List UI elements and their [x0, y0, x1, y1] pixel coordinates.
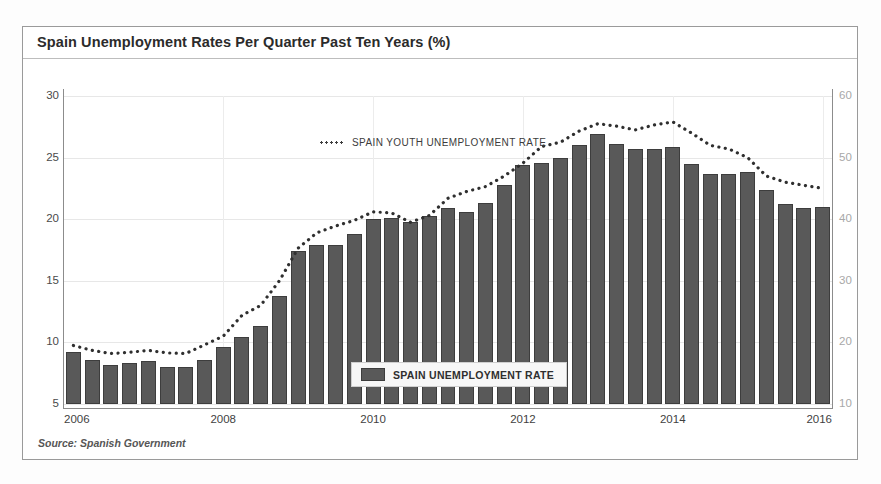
bar: [590, 134, 605, 404]
gridline: [64, 158, 832, 159]
bar: [309, 245, 324, 404]
bar: [122, 363, 137, 404]
bar: [703, 174, 718, 404]
gridline: [64, 96, 832, 97]
dotted-line-icon: [319, 141, 345, 144]
bar: [740, 172, 755, 404]
x-axis-tick: 2016: [806, 413, 832, 425]
bar: [647, 149, 662, 404]
bar: [628, 149, 643, 404]
title-bar: Spain Unemployment Rates Per Quarter Pas…: [23, 27, 857, 59]
bar: [328, 245, 343, 404]
legend-youth-label: SPAIN YOUTH UNEMPLOYMENT RATE: [352, 137, 546, 148]
bar: [684, 164, 699, 404]
bar: [141, 361, 156, 404]
bar-swatch-icon: [361, 368, 385, 381]
bar: [160, 367, 175, 404]
x-axis-tick: 2006: [64, 413, 90, 425]
y-axis-left-tick: 20: [33, 212, 59, 224]
x-axis-tick: 2010: [360, 413, 386, 425]
y-axis-right-tick: 40: [839, 212, 867, 224]
y-axis-left-tick: 25: [33, 151, 59, 163]
legend-youth-unemployment: SPAIN YOUTH UNEMPLOYMENT RATE: [319, 137, 546, 148]
x-axis-labels: 200620082010201220142016: [64, 413, 832, 433]
y-axis-right-labels: 102030405060: [839, 96, 873, 404]
page-title: Spain Unemployment Rates Per Quarter Pas…: [37, 34, 451, 50]
bar: [85, 360, 100, 404]
bar: [815, 207, 830, 404]
y-axis-right-spine: [832, 89, 833, 409]
bar: [665, 147, 680, 404]
bar: [253, 326, 268, 404]
y-axis-left-labels: 51015202530: [27, 96, 59, 404]
y-axis-right-tick: 10: [839, 397, 867, 409]
bar: [197, 360, 212, 404]
y-axis-right-tick: 20: [839, 335, 867, 347]
y-axis-right-tick: 30: [839, 274, 867, 286]
y-axis-left-tick: 30: [33, 89, 59, 101]
bar: [234, 337, 249, 404]
y-axis-right-tick: 60: [839, 89, 867, 101]
x-axis-tick: 2012: [510, 413, 536, 425]
legend-bar-label: SPAIN UNEMPLOYMENT RATE: [393, 369, 554, 381]
bar: [759, 190, 774, 404]
x-axis-tick: 2014: [660, 413, 686, 425]
bar: [272, 296, 287, 404]
gridline: [64, 404, 832, 405]
bar: [796, 208, 811, 404]
y-axis-left-tick: 5: [33, 397, 59, 409]
bar: [216, 347, 231, 404]
y-axis-left-tick: 10: [33, 335, 59, 347]
source-note: Source: Spanish Government: [38, 437, 186, 449]
screenshot-root: Spain Unemployment Rates Per Quarter Pas…: [0, 0, 881, 484]
bar: [572, 145, 587, 404]
legend-unemployment-rate: SPAIN UNEMPLOYMENT RATE: [351, 362, 567, 387]
bar: [609, 144, 624, 404]
x-axis-spine: [63, 408, 833, 409]
chart-frame: Spain Unemployment Rates Per Quarter Pas…: [22, 26, 858, 460]
bar: [291, 251, 306, 404]
bar: [66, 352, 81, 404]
y-axis-right-tick: 50: [839, 151, 867, 163]
y-axis-left-tick: 15: [33, 274, 59, 286]
bar: [778, 204, 793, 404]
bar: [103, 365, 118, 404]
x-axis-tick: 2008: [210, 413, 236, 425]
bar: [721, 174, 736, 404]
bar: [178, 367, 193, 404]
